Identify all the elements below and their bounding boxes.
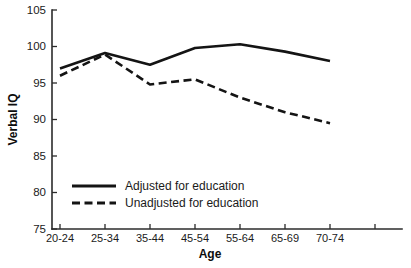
data-series-group — [60, 44, 330, 123]
x-tick-label: 70-74 — [316, 232, 344, 244]
y-tick-label: 100 — [27, 40, 46, 52]
series-line-2 — [60, 55, 330, 124]
x-tick-label: 65-69 — [271, 232, 299, 244]
legend-label-1: Adjusted for education — [125, 179, 244, 193]
x-tick-label: 45-54 — [181, 232, 209, 244]
x-tick-label: 35-44 — [136, 232, 164, 244]
y-axis: 7580859095100105 — [27, 4, 57, 235]
x-axis-title: Age — [199, 247, 222, 261]
y-tick-label: 85 — [33, 150, 46, 162]
y-tick-label: 105 — [27, 4, 46, 16]
chart-plot-area: 7580859095100105 20-2425-3435-4445-5455-… — [0, 0, 411, 268]
x-axis: 20-2425-3435-4445-5455-6465-6970-74 — [46, 224, 402, 244]
chart-legend: Adjusted for educationUnadjusted for edu… — [72, 179, 258, 210]
legend-label-2: Unadjusted for education — [125, 196, 258, 210]
x-tick-label: 20-24 — [46, 232, 74, 244]
y-tick-label: 95 — [33, 77, 46, 89]
y-tick-label: 90 — [33, 113, 46, 125]
y-tick-label: 75 — [33, 223, 46, 235]
verbal-iq-line-chart: 7580859095100105 20-2425-3435-4445-5455-… — [0, 0, 411, 268]
x-tick-label: 25-34 — [91, 232, 119, 244]
x-tick-label: 55-64 — [226, 232, 254, 244]
y-tick-label: 80 — [33, 186, 46, 198]
y-axis-title: Verbal IQ — [6, 93, 20, 145]
